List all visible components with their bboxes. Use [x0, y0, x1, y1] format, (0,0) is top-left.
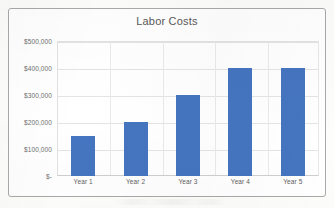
- y-axis-tick-label: $100,000: [24, 146, 52, 153]
- chart-title: Labor Costs: [9, 15, 325, 27]
- x-axis-tick-label: Year 4: [214, 178, 266, 185]
- y-axis-tick-label: $-: [46, 173, 52, 180]
- x-axis-tick-label: Year 2: [109, 178, 161, 185]
- scanned-page: Labor Costs $-$100,000$200,000$300,000$4…: [0, 0, 334, 208]
- chart-container[interactable]: Labor Costs $-$100,000$200,000$300,000$4…: [8, 8, 326, 197]
- bar-slot: [214, 41, 266, 176]
- bar-year-3[interactable]: [176, 95, 200, 176]
- y-axis-tick-label: $200,000: [24, 119, 52, 126]
- bar-series: [57, 41, 319, 176]
- x-axis-tick-label: Year 1: [57, 178, 109, 185]
- bar-slot: [162, 41, 214, 176]
- bar-slot: [57, 41, 109, 176]
- bar-year-1[interactable]: [71, 136, 95, 177]
- y-axis-tick-labels: $-$100,000$200,000$300,000$400,000$500,0…: [9, 41, 55, 176]
- bar-slot: [109, 41, 161, 176]
- y-axis-tick-label: $500,000: [24, 38, 52, 45]
- x-axis-tick-label: Year 3: [162, 178, 214, 185]
- y-axis-tick-label: $300,000: [24, 92, 52, 99]
- x-axis-tick-label: Year 5: [267, 178, 319, 185]
- bar-year-2[interactable]: [124, 122, 148, 176]
- bar-slot: [267, 41, 319, 176]
- x-axis-tick-labels: Year 1Year 2Year 3Year 4Year 5: [57, 178, 319, 192]
- y-axis-tick-label: $400,000: [24, 65, 52, 72]
- bar-year-5[interactable]: [281, 68, 305, 176]
- scan-artifact: [112, 199, 228, 205]
- bar-year-4[interactable]: [228, 68, 252, 176]
